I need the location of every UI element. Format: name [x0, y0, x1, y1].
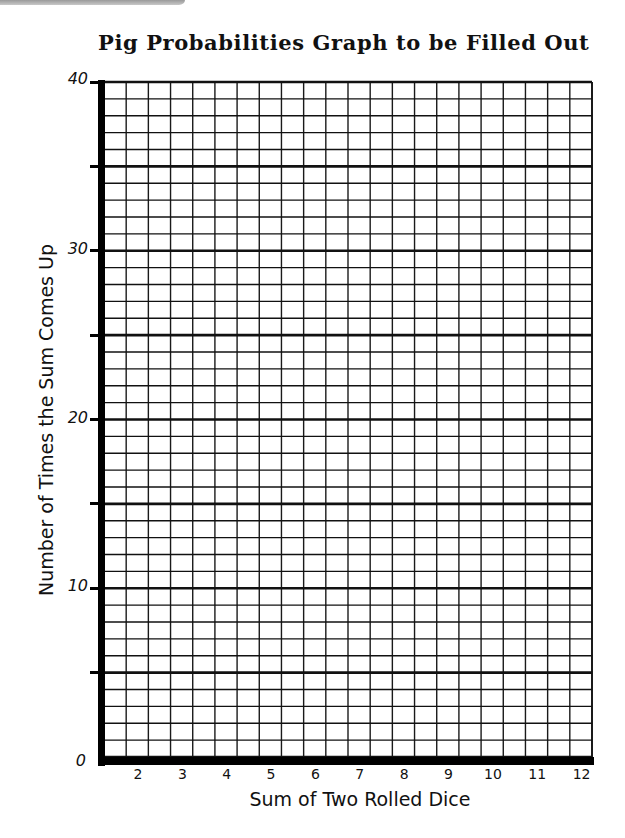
y-tick-mark [90, 81, 100, 84]
y-tick-mark [90, 334, 100, 337]
x-tick-label: 2 [123, 766, 153, 782]
y-tick-mark [90, 502, 100, 505]
x-axis-line [98, 757, 594, 765]
chart-title: Pig Probabilities Graph to be Filled Out [98, 30, 598, 55]
y-tick-mark [90, 671, 100, 674]
scan-corner-shade [0, 0, 185, 5]
x-axis-title: Sum of Two Rolled Dice [200, 788, 520, 810]
y-axis-line [98, 80, 105, 766]
x-tick-label: 7 [345, 766, 375, 782]
x-tick-label: 11 [522, 766, 552, 782]
y-tick-label: 40 [48, 69, 88, 88]
x-tick-label: 3 [167, 766, 197, 782]
y-tick-label: 0 [46, 751, 86, 770]
y-axis-title: Number of Times the Sum Comes Up [35, 210, 57, 630]
y-tick-mark [90, 418, 100, 421]
y-tick-mark [90, 587, 100, 590]
x-tick-label: 4 [212, 766, 242, 782]
x-tick-label: 12 [567, 766, 597, 782]
grid-lines [104, 82, 592, 757]
x-tick-label: 5 [256, 766, 286, 782]
plot-grid [104, 82, 592, 757]
y-tick-mark [90, 165, 100, 168]
y-tick-mark [90, 249, 100, 252]
x-tick-label: 10 [478, 766, 508, 782]
x-tick-label: 9 [434, 766, 464, 782]
x-tick-label: 6 [300, 766, 330, 782]
x-tick-label: 8 [389, 766, 419, 782]
